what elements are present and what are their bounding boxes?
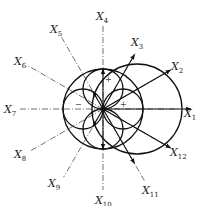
axis-line-x8	[30, 109, 103, 151]
axis-label-subscript: 3	[139, 43, 143, 51]
axis-label-x9: X9	[47, 177, 60, 192]
axis-label-x1: X1	[183, 107, 196, 122]
axis-label-x8: X8	[13, 148, 26, 163]
axis-label-subscript: 2	[179, 67, 183, 75]
axis-label-subscript: 1	[192, 114, 196, 122]
axis-label-subscript: 5	[58, 30, 62, 38]
axis-label-subscript: 6	[22, 62, 27, 70]
axis-label-x12: X12	[169, 146, 187, 161]
axis-label-x10: X10	[94, 194, 112, 206]
axis-label-subscript: 8	[22, 155, 26, 163]
axis-label-x5: X5	[49, 23, 62, 38]
vector-arrow-x2	[103, 70, 171, 109]
diagram-canvas: X1X2X3X4X5X6X7X8X9X10X11X12 +−+	[0, 0, 198, 206]
polarity-sign: +	[120, 100, 127, 109]
polarity-sign: +	[105, 75, 112, 84]
axis-label-x3: X3	[130, 36, 143, 51]
axis-label-x4: X4	[95, 10, 109, 25]
axis-label-subscript: 10	[103, 201, 112, 206]
axis-label-x6: X6	[13, 55, 27, 70]
axes-group	[20, 26, 191, 190]
axis-label-subscript: 7	[12, 110, 16, 118]
axis-label-x7: X7	[3, 103, 16, 118]
vector-arrow-x12	[103, 109, 171, 148]
axis-label-x2: X2	[170, 60, 183, 75]
axis-label-subscript: 11	[150, 191, 159, 199]
axis-label-subscript: 9	[56, 184, 60, 192]
polar-diagram: X1X2X3X4X5X6X7X8X9X10X11X12 +−+	[0, 0, 198, 206]
origin-point	[101, 107, 105, 111]
axis-label-subscript: 12	[178, 153, 187, 161]
axis-label-subscript: 4	[104, 17, 109, 25]
labels-group: X1X2X3X4X5X6X7X8X9X10X11X12	[3, 10, 196, 206]
polarity-sign: −	[75, 100, 82, 109]
axis-label-x11: X11	[141, 184, 159, 199]
